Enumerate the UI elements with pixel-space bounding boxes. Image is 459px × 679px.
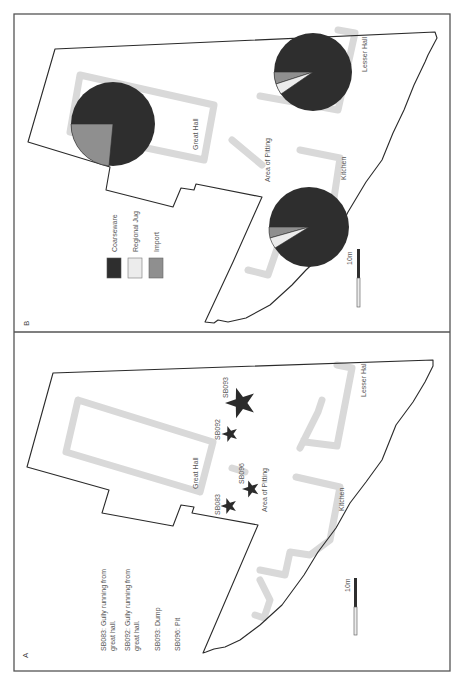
legend-a-item-sb092-line1: SB092: Gully running from (124, 569, 132, 651)
panel-b: Great Hall Area of Pitting Kitchen Lesse… (22, 30, 437, 326)
label-area-of-pitting-a: Area of Pitting (261, 468, 269, 512)
panel-a-label: A (21, 652, 30, 658)
scale-bar-a: 10m (344, 578, 357, 635)
pie-lesser-hall (274, 33, 352, 111)
legend-a-item-sb093: SB093: Dump (154, 607, 162, 651)
panel-a: SB093 SB092 SB096 SB083 Great Hall Area … (21, 360, 433, 658)
label-sb096: SB096 (238, 463, 245, 484)
great-hall-walls-a (66, 400, 213, 492)
legend-label-coarseware: Coarseware (111, 214, 118, 252)
lesser-hall-walls-a (300, 365, 352, 448)
scale-bar-b-label: 10m (346, 251, 353, 265)
star-sb093-icon (225, 388, 254, 418)
panel-b-label: B (22, 321, 31, 326)
annex-walls-a (255, 580, 270, 618)
legend-a-item-sb096: SB096: Pit (174, 618, 181, 651)
pitting-walls (232, 140, 262, 165)
label-lesser-hall-b: Lesser Hall (361, 37, 368, 72)
legend-swatch-regional-jug (128, 258, 142, 278)
pie-great-hall-import (71, 124, 113, 166)
label-kitchen-b: Kitchen (340, 157, 347, 180)
feature-markers (221, 388, 259, 514)
label-area-of-pitting-b: Area of Pitting (264, 138, 272, 182)
legend-a: SB083: Gully running from great hall. SB… (100, 569, 181, 651)
kitchen-walls-a (260, 477, 340, 575)
scale-bar-a-dark (354, 578, 357, 607)
star-sb083-icon (221, 498, 236, 514)
label-sb093: SB093 (222, 377, 229, 398)
scale-bar-a-label: 10m (344, 578, 351, 592)
scale-bar-b-dark (357, 249, 360, 278)
scale-bar-b-light (357, 278, 360, 307)
scale-bar-a-light (354, 607, 357, 635)
label-great-hall-a: Great Hall (192, 457, 199, 489)
legend-label-import: Import (153, 232, 161, 252)
pie-kitchen (269, 187, 349, 267)
star-sb092-icon (222, 426, 237, 442)
label-kitchen-a: Kitchen (338, 488, 345, 511)
legend-swatch-coarseware (107, 258, 121, 278)
legend-swatch-import (149, 258, 163, 278)
label-sb092: SB092 (214, 419, 221, 440)
legend-label-regional-jug: Regional Jug (132, 211, 140, 252)
scale-bar-b: 10m (346, 249, 360, 307)
legend-a-item-sb083-line1: SB083: Gully running from (100, 569, 108, 651)
label-sb083: SB083 (214, 494, 221, 515)
legend-a-item-sb083-line2: great hall. (109, 620, 117, 651)
pie-great-hall (71, 82, 155, 166)
legend-b: Coarseware Regional Jug Import (107, 211, 163, 278)
site-map-figure: Great Hall Area of Pitting Kitchen Lesse… (0, 0, 459, 679)
label-lesser-hall-a: Lesser Hall (360, 362, 367, 397)
label-great-hall-b: Great Hall (192, 118, 199, 150)
legend-a-item-sb092-line2: great hall. (133, 620, 141, 651)
